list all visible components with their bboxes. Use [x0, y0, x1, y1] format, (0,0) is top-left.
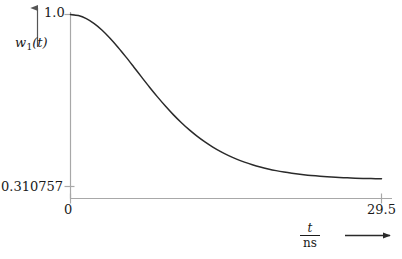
y-axis-label-argument: (t) [32, 35, 47, 50]
x-axis-label: t ns [300, 222, 320, 250]
x-axis-label-numerator: t [300, 222, 320, 235]
plot-figure: w1(t) 1.0 0.310757 0 29.5 t ns [0, 0, 402, 259]
y-tick-label-bottom: 0.310757 [1, 180, 63, 193]
y-axis-label-variable: w [15, 35, 26, 50]
x-axis-label-denominator: ns [300, 237, 320, 250]
x-tick-label-right: 29.5 [367, 203, 396, 216]
data-curve [71, 15, 382, 179]
y-tick-label-top: 1.0 [44, 6, 65, 19]
plot-canvas [0, 0, 402, 259]
y-axis-label: w1(t) [15, 36, 48, 52]
x-tick-label-left: 0 [64, 203, 72, 216]
